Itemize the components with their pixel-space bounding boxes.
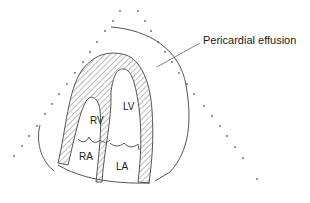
heart-base-line bbox=[58, 165, 150, 183]
mitral-valve bbox=[110, 143, 139, 150]
echo-diagram: Pericardial effusion RV LV RA LA bbox=[0, 0, 310, 203]
callout-label: Pericardial effusion bbox=[203, 34, 296, 46]
chamber-label-ra: RA bbox=[79, 151, 93, 162]
chamber-label-rv: RV bbox=[90, 115, 104, 126]
chamber-label-lv: LV bbox=[123, 101, 135, 112]
myocardium bbox=[58, 53, 153, 183]
diagram-canvas: Pericardial effusion RV LV RA LA bbox=[0, 0, 310, 203]
chamber-label-la: LA bbox=[116, 161, 129, 172]
pericardium-left-arc bbox=[39, 125, 54, 171]
